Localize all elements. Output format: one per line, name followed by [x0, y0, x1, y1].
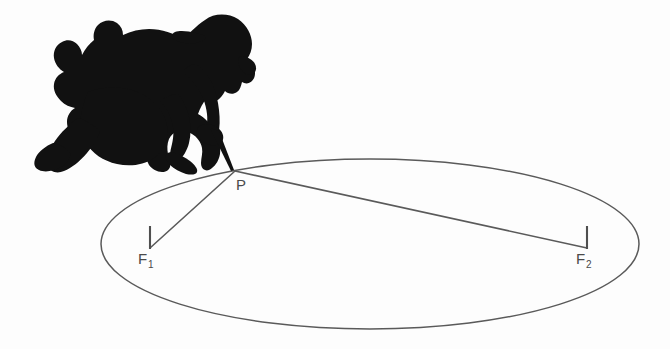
- kneeling-person-silhouette: [34, 15, 256, 175]
- string-segment-p-to-f2: [235, 171, 587, 248]
- figure-canvas: P F1 F2: [0, 0, 670, 349]
- label-focus-2: F2: [576, 250, 592, 270]
- label-focus-1-base: F: [138, 250, 147, 267]
- label-focus-1: F1: [138, 250, 154, 270]
- ellipse-curve: [101, 159, 639, 329]
- label-focus-2-subscript: 2: [586, 259, 592, 270]
- label-group: P F1 F2: [138, 176, 592, 270]
- peg-group: [150, 226, 587, 249]
- label-focus-2-base: F: [576, 250, 585, 267]
- string-segment-p-to-f1: [150, 171, 235, 248]
- ellipse-construction-figure: P F1 F2: [0, 0, 670, 349]
- label-focus-1-subscript: 1: [148, 259, 154, 270]
- ellipse-group: [101, 159, 639, 329]
- string-group: [150, 171, 587, 248]
- label-point-p: P: [236, 176, 246, 193]
